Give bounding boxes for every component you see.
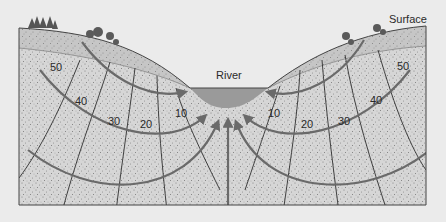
river-label: River bbox=[216, 70, 242, 81]
equipotential-label-left-10: 10 bbox=[175, 108, 187, 119]
equipotential-label-right-30: 30 bbox=[338, 116, 350, 127]
equipotential-label-left-40: 40 bbox=[75, 96, 87, 107]
equipotential-label-right-10: 10 bbox=[268, 108, 280, 119]
equipotential-label-right-40: 40 bbox=[370, 95, 382, 106]
equipotential-label-left-20: 20 bbox=[140, 119, 152, 130]
equipotential-label-left-30: 30 bbox=[108, 116, 120, 127]
equipotential-label-left-50: 50 bbox=[50, 62, 62, 73]
equipotential-label-right-20: 20 bbox=[301, 119, 313, 130]
equipotential-label-right-50: 50 bbox=[397, 61, 409, 72]
trees-left bbox=[28, 16, 58, 29]
groundwater-flow-diagram bbox=[0, 0, 446, 222]
surface-label: Surface bbox=[389, 14, 427, 25]
